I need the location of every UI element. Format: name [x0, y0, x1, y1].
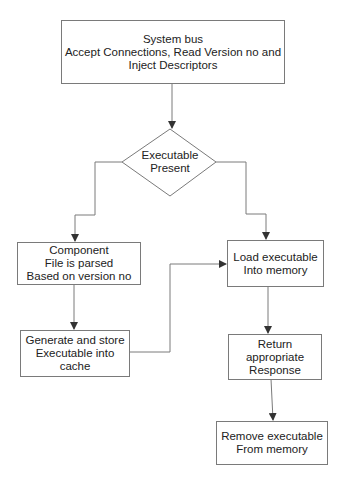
node-generate-store: Generate and store Executable into cache [20, 330, 130, 377]
edge-return-to-remove [271, 379, 273, 420]
node-remove-executable: Remove executable From memory [216, 421, 328, 465]
node-remove-executable-label: Remove executable From memory [221, 430, 323, 456]
node-component-parsed-label: Component File is parsed Based on versio… [27, 244, 132, 283]
node-executable-present-label: Executable Present [122, 145, 218, 179]
node-return-response-label: Return appropriate Response [229, 338, 321, 377]
node-system-bus-label: System bus Accept Connections, Read Vers… [65, 33, 281, 72]
node-return-response: Return appropriate Response [228, 334, 322, 380]
edge-decision-to-load [216, 162, 266, 239]
edge-decision-to-component [75, 162, 122, 241]
node-load-executable: Load executable Into memory [227, 240, 324, 287]
edge-generate-to-load [129, 264, 226, 352]
node-component-parsed: Component File is parsed Based on versio… [17, 242, 141, 285]
node-generate-store-label: Generate and store Executable into cache [25, 334, 124, 373]
node-load-executable-label: Load executable Into memory [233, 251, 317, 277]
node-system-bus: System bus Accept Connections, Read Vers… [61, 20, 285, 84]
